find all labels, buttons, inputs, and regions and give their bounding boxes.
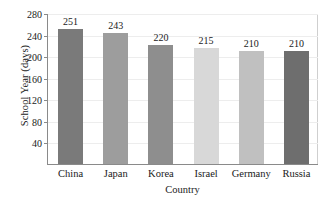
y-tick-mark xyxy=(44,57,48,58)
y-tick-label: 280 xyxy=(27,9,42,20)
gridline xyxy=(48,57,318,58)
gridline xyxy=(48,36,318,37)
y-tick-label: 160 xyxy=(27,73,42,84)
y-tick-label: 240 xyxy=(27,30,42,41)
gridline xyxy=(48,143,318,144)
y-tick-mark xyxy=(44,14,48,15)
x-tick-label: Japan xyxy=(104,168,128,179)
gridline xyxy=(48,100,318,101)
bar-value-label: 210 xyxy=(289,38,304,49)
x-tick-label: Korea xyxy=(148,168,174,179)
x-tick-label: Germany xyxy=(232,168,271,179)
x-tick-label: Russia xyxy=(282,168,310,179)
y-tick-mark xyxy=(44,79,48,80)
x-tick-label: Israel xyxy=(194,168,217,179)
x-tick-label: China xyxy=(58,168,83,179)
bar: 243 xyxy=(103,33,128,164)
bar: 215 xyxy=(194,48,219,164)
bar-value-label: 215 xyxy=(199,35,214,46)
plot-area: 2802402001601208040 251243220215210210 C… xyxy=(47,14,318,165)
bar: 251 xyxy=(58,29,83,164)
gridline xyxy=(48,79,318,80)
bar: 220 xyxy=(148,45,173,164)
bar-value-label: 251 xyxy=(63,16,78,27)
x-axis-title: Country xyxy=(47,184,318,195)
y-tick-label: 40 xyxy=(32,138,42,149)
bar-value-label: 243 xyxy=(108,20,123,31)
bar-value-label: 210 xyxy=(244,38,259,49)
y-tick-label: 120 xyxy=(27,95,42,106)
gridline xyxy=(48,122,318,123)
bar-chart-figure: School Year (days) 2802402001601208040 2… xyxy=(0,0,331,202)
y-tick-mark xyxy=(44,143,48,144)
y-tick-mark xyxy=(44,36,48,37)
y-tick-label: 200 xyxy=(27,52,42,63)
bar: 210 xyxy=(239,51,264,164)
gridline xyxy=(48,14,318,15)
bar: 210 xyxy=(284,51,309,164)
y-tick-mark xyxy=(44,100,48,101)
y-tick-label: 80 xyxy=(32,116,42,127)
y-tick-mark xyxy=(44,122,48,123)
bar-value-label: 220 xyxy=(153,32,168,43)
